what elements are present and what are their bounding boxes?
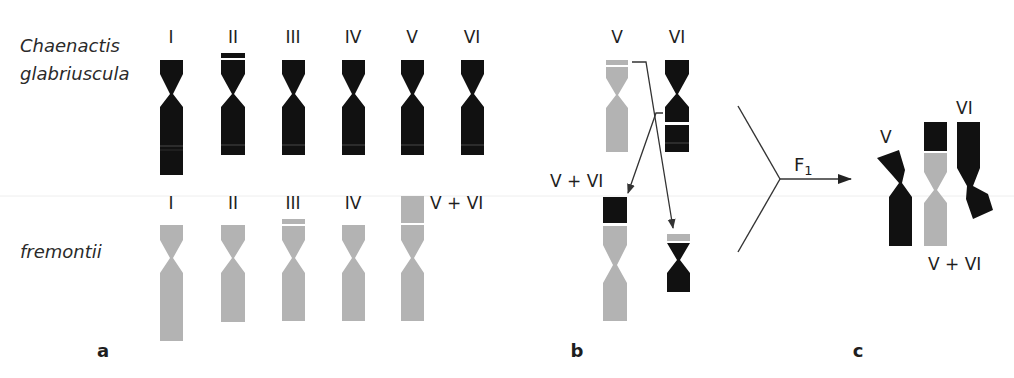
chromosome-v-vi-translocated-segment <box>401 196 424 223</box>
panel-a-top-row: I II III IV V VI <box>160 27 484 175</box>
label-vi: VI <box>956 98 973 118</box>
chromosome-i-glabriuscula <box>160 60 183 175</box>
chromosome-v-vi-fremontii <box>401 225 424 321</box>
chromosome-iv-glabriuscula <box>342 60 365 155</box>
species-label-glabriuscula: glabriuscula <box>20 63 129 84</box>
panel-a-bottom-row: I II III IV V + VI <box>160 193 483 341</box>
chromosome-iv-fremontii <box>342 225 365 321</box>
chromosome-v-band <box>606 60 628 65</box>
chromosome-vi-glabriuscula-b <box>665 60 689 122</box>
species-label-fremontii: fremontii <box>20 241 102 262</box>
chromosome-v-fremontii-b <box>606 67 628 152</box>
chromosome-iii-glabriuscula <box>282 60 305 155</box>
chromosome-small-gray-band <box>667 234 690 241</box>
chromosome-v-vi-f1 <box>924 153 947 246</box>
species-label-chaenactis: Chaenactis <box>20 35 120 56</box>
chromosome-ii-fremontii <box>221 225 245 322</box>
panel-label-b: b <box>571 340 584 361</box>
chromosome-v-vi-black-segment <box>603 197 627 223</box>
chromosome-small-reciprocal <box>667 243 690 292</box>
label-v-vi: V + VI <box>928 254 981 274</box>
roman-label: II <box>228 27 238 47</box>
chromosome-v-vi-f1-black <box>924 122 947 151</box>
roman-label: IV <box>345 27 362 47</box>
roman-label: IV <box>345 193 362 213</box>
translocation-label: V + VI <box>550 171 603 191</box>
roman-label: VI <box>464 27 481 47</box>
roman-label: I <box>168 27 173 47</box>
chromosome-vi-distal-segment <box>665 125 689 152</box>
panel-label-c: c <box>853 340 864 361</box>
roman-label: I <box>168 193 173 213</box>
roman-label: III <box>285 27 300 47</box>
roman-label-v-vi: V + VI <box>430 193 483 213</box>
roman-label: II <box>228 193 238 213</box>
cross-line-lower <box>738 179 780 252</box>
chromosome-iii-fremontii <box>282 226 305 321</box>
roman-label: V <box>611 27 623 47</box>
chromosome-ii-glabriuscula <box>221 60 245 155</box>
f1-label: F1 <box>794 154 813 178</box>
panel-b: V VI V + VI <box>550 27 690 321</box>
cross-line-upper <box>738 106 780 179</box>
figure-canvas: Chaenactis glabriuscula fremontii I II I… <box>0 0 1014 378</box>
chromosome-v-glabriuscula <box>401 60 424 155</box>
arrow-vi-segment-to-v <box>628 113 663 193</box>
chromosome-vi-glabriuscula <box>461 60 484 155</box>
label-v: V <box>880 127 892 147</box>
roman-label: VI <box>669 27 686 47</box>
chromosome-vi-f1 <box>957 122 993 219</box>
roman-label: V <box>406 27 418 47</box>
chromosome-iii-band <box>282 219 305 224</box>
panel-c: F1 V VI V + VI <box>738 98 993 274</box>
chromosome-v-f1 <box>877 150 912 246</box>
roman-label: III <box>285 193 300 213</box>
panel-label-a: a <box>97 340 109 361</box>
chromosome-ii-band <box>221 53 245 58</box>
chromosome-translocation-figure: Chaenactis glabriuscula fremontii I II I… <box>0 0 1014 378</box>
chromosome-i-fremontii <box>160 225 183 341</box>
chromosome-v-vi-b <box>603 226 627 321</box>
